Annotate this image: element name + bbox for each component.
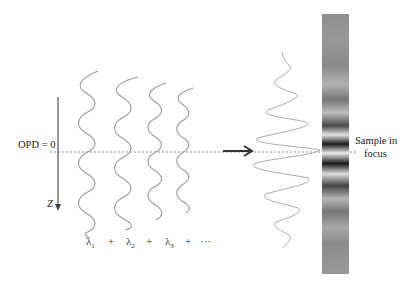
sample-in-focus-label-line1: Sample in [355,136,397,147]
plus-sign-3: + [185,235,191,247]
fringe-intensity-bar [322,14,349,274]
interference-signal [253,52,320,248]
plus-sign-2: + [146,235,152,247]
wave-lambda-3 [148,83,166,220]
summation-arrow [223,146,252,156]
wave-lambda-1 [79,71,99,238]
plus-sign-1: + [108,235,114,247]
lambda-term-1: λ1 [86,235,95,250]
lambda-term-2: λ2 [126,235,135,250]
lambda-term-3: λ3 [165,235,174,250]
ellipsis: ··· [200,235,211,247]
sample-in-focus-label-line2: focus [364,149,387,160]
wave-lambda-4 [177,88,193,213]
interferometry-diagram: OPD = 0 Z Sample in focus λ1 + λ2 + λ3 +… [0,0,415,288]
opd-zero-label: OPD = 0 [18,140,55,151]
z-axis-arrow [55,97,61,211]
z-axis-label: Z [47,199,53,210]
wavelength-waves [79,71,194,238]
wave-lambda-2 [115,77,139,230]
